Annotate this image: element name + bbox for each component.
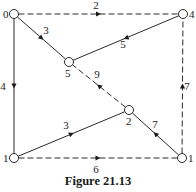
edge-weight-label: 2 xyxy=(93,0,99,11)
node-n0: 0 xyxy=(3,8,19,20)
arrowhead-icon xyxy=(96,155,101,160)
node-n1a: 1 xyxy=(3,152,19,164)
edge-n0-n4 xyxy=(19,11,179,16)
node-n4: 4 xyxy=(179,8,196,20)
node-label: 1 xyxy=(188,152,194,164)
node-circle-icon xyxy=(179,10,188,19)
edge-weight-label: 7 xyxy=(152,118,158,130)
arrowhead-icon xyxy=(96,11,101,16)
arrowhead-icon xyxy=(11,84,16,89)
node-circle-icon xyxy=(65,58,74,67)
figure-caption: Figure 21.13 xyxy=(0,174,196,189)
node-label: 4 xyxy=(189,8,195,20)
node-circle-icon xyxy=(10,10,19,19)
node-n2: 2 xyxy=(125,106,134,128)
node-n1b: 1 xyxy=(178,152,194,164)
node-label: 2 xyxy=(126,115,132,127)
node-label: 1 xyxy=(3,152,9,164)
edge-weight-label: 5 xyxy=(120,38,126,50)
node-label: 0 xyxy=(3,8,9,20)
node-label: 5 xyxy=(65,67,71,79)
edge-n0-n1a xyxy=(11,19,16,154)
edge-weight-label: 4 xyxy=(0,80,6,92)
edge-n1a-n2 xyxy=(18,112,125,157)
edge-n4-n5 xyxy=(73,16,179,61)
edge-weight-label: 9 xyxy=(94,68,100,80)
node-circle-icon xyxy=(10,154,19,163)
edge-weight-label: 3 xyxy=(63,119,69,131)
node-n5: 5 xyxy=(65,58,74,80)
edge-n0-n5 xyxy=(17,17,65,59)
edges-layer xyxy=(11,11,185,160)
edge-n1a-n1b xyxy=(19,155,178,160)
edge-weight-label: 7 xyxy=(184,80,190,92)
graph-diagram: 234593767 045211 xyxy=(0,0,196,192)
node-circle-icon xyxy=(178,154,187,163)
node-circle-icon xyxy=(125,106,134,115)
edge-weight-label: 3 xyxy=(43,24,49,36)
